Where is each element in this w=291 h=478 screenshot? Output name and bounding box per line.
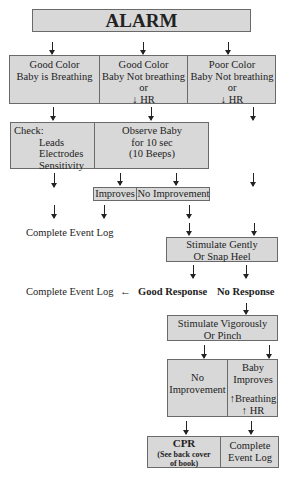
- stimulate-gently-line: Stimulate Gently: [167, 239, 277, 251]
- stimulate-gently-box: Stimulate Gently Or Snap Heel: [166, 237, 278, 262]
- arrow-down-icon: [186, 421, 187, 434]
- condition-row: Good Color Baby is Breathing Good Color …: [9, 55, 276, 104]
- arrow-down-icon: [269, 345, 270, 358]
- alarm-box: ALARM: [32, 9, 251, 32]
- condition-line: ↓ HR: [188, 94, 276, 106]
- arrow-down-icon: [251, 421, 252, 434]
- outcome1-row: Improves No Improvement: [93, 187, 210, 201]
- spacer: [228, 385, 278, 393]
- arrow-down-icon: [143, 42, 144, 54]
- complete-event-log-line: Event Log: [221, 452, 279, 464]
- no-improvement-line: Improvement: [168, 384, 227, 396]
- stimulate-vigorously-box: Stimulate Vigorously Or Pinch: [167, 315, 278, 341]
- check-box: Check: Leads Electrodes Sensitivity: [11, 123, 94, 168]
- condition-good-color-breathing: Good Color Baby is Breathing: [10, 56, 99, 103]
- arrow-left-icon: ←: [120, 285, 131, 297]
- arrow-down-icon: [189, 205, 190, 218]
- check-item: Leads: [14, 137, 94, 149]
- complete-event-log-line: Complete: [221, 440, 279, 452]
- cpr-box: CPR (See back cover of book): [148, 437, 220, 467]
- condition-line: Poor Color: [188, 59, 276, 71]
- check-heading: Check:: [14, 125, 94, 137]
- improves-label-box: Improves: [94, 188, 136, 200]
- improves-label: Improves: [95, 188, 135, 199]
- arrow-down-icon: [204, 345, 205, 358]
- arrow-down-icon: [176, 173, 177, 185]
- arrow-down-icon: [228, 42, 229, 54]
- cpr-title: CPR: [148, 438, 220, 450]
- condition-line: ↓ HR: [100, 94, 187, 106]
- no-improvement-label: No Improvement: [137, 188, 209, 199]
- arrow-down-icon: [193, 265, 194, 278]
- observe-line: for 10 sec: [95, 137, 209, 149]
- baby-improves-line: Baby: [228, 362, 278, 374]
- complete-event-log-1: Complete Event Log: [26, 227, 113, 238]
- arrow-down-icon: [54, 173, 55, 187]
- good-response-label: Good Response: [138, 286, 207, 297]
- no-improvement-box: No Improvement: [168, 360, 227, 416]
- condition-poor-color-not-breathing: Poor Color Baby Not breathing or ↓ HR: [187, 56, 276, 103]
- observe-line: Observe Baby: [95, 125, 209, 137]
- observe-line: (10 Beeps): [95, 148, 209, 160]
- complete-event-log-box: Complete Event Log: [220, 437, 279, 467]
- check-item: Sensitivity: [14, 160, 94, 172]
- arrow-down-icon: [52, 42, 53, 54]
- condition-good-color-not-breathing: Good Color Baby Not breathing or ↓ HR: [99, 56, 187, 103]
- condition-line: Good Color: [10, 59, 99, 71]
- arrow-down-icon: [246, 265, 247, 278]
- arrow-down-icon: [253, 173, 254, 186]
- arrow-down-icon: [104, 205, 105, 218]
- cpr-note: of book): [148, 459, 220, 468]
- arrow-down-icon: [54, 205, 55, 218]
- condition-line: Baby Not breathing: [100, 71, 187, 83]
- condition-line: Good Color: [100, 59, 187, 71]
- stimulate-gently-line: Or Snap Heel: [167, 251, 277, 263]
- arrow-down-icon: [151, 107, 152, 120]
- stimulate-vigorously-line: Stimulate Vigorously: [168, 318, 277, 330]
- no-response-label: No Response: [217, 286, 274, 297]
- check-item: Electrodes: [14, 148, 94, 160]
- no-improvement-label-box: No Improvement: [136, 188, 210, 200]
- baby-improves-line: Improves: [228, 374, 278, 386]
- arrow-down-icon: [120, 173, 121, 185]
- final-row: CPR (See back cover of book) Complete Ev…: [147, 436, 279, 468]
- arrow-down-icon: [53, 107, 54, 120]
- outcome2-row: No Improvement Baby Improves ↑Breathing …: [167, 359, 278, 417]
- condition-line: Baby is Breathing: [10, 71, 99, 83]
- condition-line: or: [188, 82, 276, 94]
- complete-event-log-2: Complete Event Log: [26, 286, 113, 297]
- baby-improves-line: ↑Breathing: [228, 393, 278, 405]
- cpr-note: (See back cover: [148, 450, 220, 459]
- check-observe-row: Check: Leads Electrodes Sensitivity Obse…: [10, 122, 209, 169]
- observe-box: Observe Baby for 10 sec (10 Beeps): [94, 123, 209, 168]
- arrow-down-icon: [253, 107, 254, 120]
- alarm-title: ALARM: [106, 10, 178, 31]
- condition-line: Baby Not breathing: [188, 71, 276, 83]
- arrow-down-icon: [189, 223, 190, 235]
- condition-line: or: [100, 82, 187, 94]
- arrow-down-icon: [254, 223, 255, 235]
- baby-improves-line: ↑ HR: [228, 405, 278, 417]
- arrow-down-icon: [246, 303, 247, 314]
- baby-improves-box: Baby Improves ↑Breathing ↑ HR: [227, 360, 278, 416]
- no-improvement-line: No: [168, 372, 227, 384]
- stimulate-vigorously-line: Or Pinch: [168, 330, 277, 342]
